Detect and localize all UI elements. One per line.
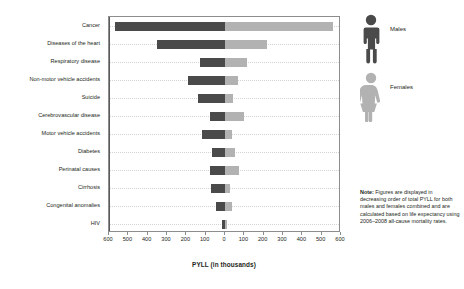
axis-tick	[205, 232, 206, 235]
bar-female	[225, 112, 244, 121]
axis-tick	[127, 232, 128, 235]
bar-male	[212, 148, 225, 157]
bar-female	[225, 94, 233, 103]
note-text: Figures are displayed in decreasing orde…	[360, 189, 460, 224]
category-label: HIV	[91, 220, 100, 226]
axis-tick-label: 600	[329, 236, 351, 243]
bar-female	[225, 148, 235, 157]
axis-tick	[185, 232, 186, 235]
bar-female	[225, 202, 232, 211]
chart-plot-area: CancerDiseases of the heartRespiratory d…	[0, 0, 348, 289]
category-label: Motor vehicle accidents	[42, 130, 100, 136]
bar-female	[225, 166, 239, 175]
bar-female	[225, 184, 230, 193]
legend-item-females: Females	[360, 72, 464, 124]
bar-male	[216, 202, 225, 211]
axis-tick	[301, 232, 302, 235]
category-label: Cancer	[82, 22, 100, 28]
chart-note: Note: Figures are displayed in decreasin…	[360, 189, 460, 225]
axis-tick	[282, 232, 283, 235]
bar-male	[188, 76, 225, 85]
bar-female	[225, 220, 227, 229]
category-label: Perinatal causes	[59, 166, 100, 172]
category-label: Cirrhosis	[78, 184, 100, 190]
bar-male	[200, 58, 225, 67]
axis-title: PYLL (in thousands)	[108, 261, 340, 268]
category-label: Congenital anomalies	[46, 202, 100, 208]
category-label: Diseases of the heart	[47, 40, 100, 46]
note-prefix: Note:	[360, 189, 374, 195]
axis-tick	[321, 232, 322, 235]
bar-male	[115, 22, 225, 31]
plot-canvas	[108, 16, 340, 232]
female-figure-icon	[360, 72, 382, 122]
axis-tick	[166, 232, 167, 235]
category-axis-labels: CancerDiseases of the heartRespiratory d…	[0, 16, 104, 232]
bar-female	[225, 58, 247, 67]
axis-tick	[224, 232, 225, 235]
bar-male	[157, 40, 225, 49]
category-label: Diabetes	[78, 148, 100, 154]
bar-male	[210, 112, 225, 121]
bar-female	[225, 40, 267, 49]
legend-item-males: Males	[360, 14, 464, 66]
category-label: Cerebrovascular disease	[38, 112, 100, 118]
bar-male	[198, 94, 225, 103]
value-axis: 6005004003002001000100200300400500600	[108, 232, 340, 246]
axis-tick	[108, 232, 109, 235]
bar-female	[225, 22, 333, 31]
category-label: Suicide	[82, 94, 100, 100]
bar-female	[225, 130, 232, 139]
legend-label-males: Males	[390, 26, 406, 32]
male-figure-icon	[360, 14, 382, 64]
bar-male	[210, 166, 225, 175]
axis-tick	[147, 232, 148, 235]
axis-tick	[340, 232, 341, 235]
category-label: Non-motor vehicle accidents	[29, 76, 100, 82]
category-label: Respiratory disease	[51, 58, 100, 64]
bar-female	[225, 76, 238, 85]
axis-tick	[243, 232, 244, 235]
chart-legend: Males Females	[360, 14, 464, 130]
bar-male	[211, 184, 226, 193]
bar-male	[202, 130, 225, 139]
axis-tick	[263, 232, 264, 235]
legend-label-females: Females	[390, 84, 413, 90]
chart-figure: CancerDiseases of the heartRespiratory d…	[0, 0, 464, 289]
zero-axis-line	[109, 17, 110, 231]
